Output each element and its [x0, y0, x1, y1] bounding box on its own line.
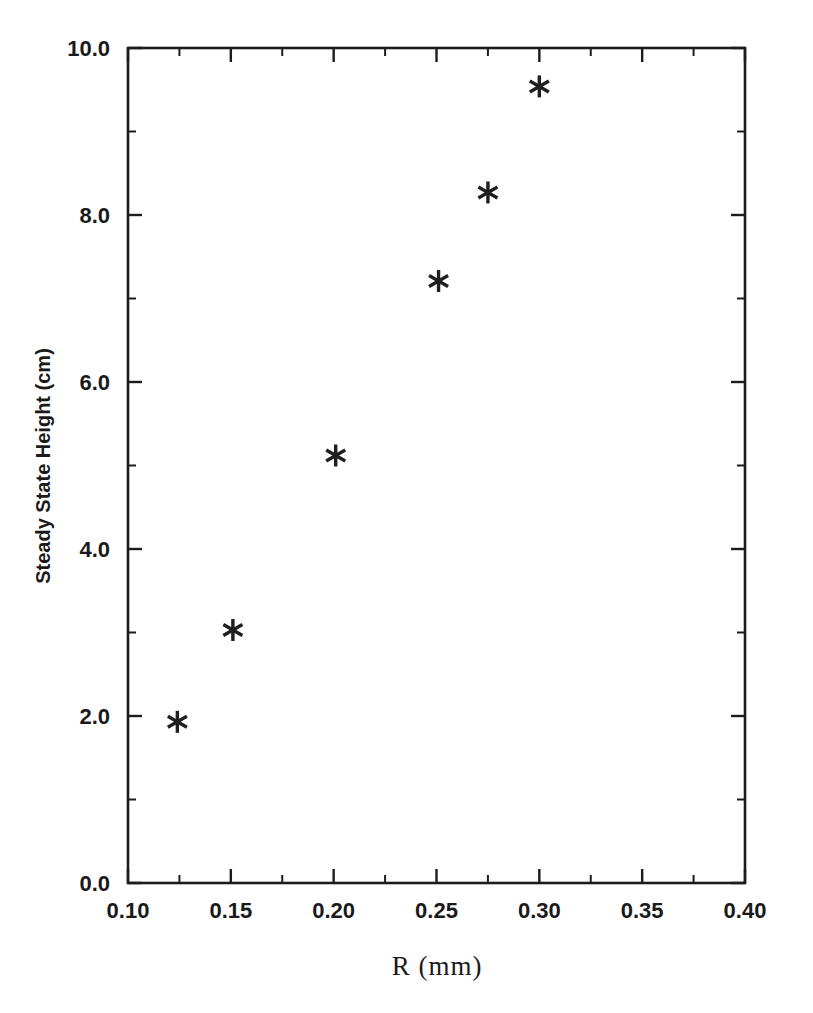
- x-axis-title: R (mm): [392, 951, 483, 981]
- y-tick-label: 10.0: [67, 36, 110, 61]
- tick-marks: [128, 48, 745, 883]
- x-tick-label: 0.40: [724, 898, 767, 923]
- data-point: [530, 75, 549, 97]
- data-points-group: [168, 75, 549, 732]
- x-tick-labels: 0.100.150.200.250.300.350.40: [107, 898, 767, 923]
- axes-frame: [128, 48, 745, 883]
- data-point: [429, 270, 448, 292]
- y-tick-label: 2.0: [79, 704, 110, 729]
- scatter-plot-figure: 0.02.04.06.08.010.0 0.100.150.200.250.30…: [0, 0, 813, 1013]
- y-tick-label: 8.0: [79, 203, 110, 228]
- x-tick-label: 0.15: [209, 898, 252, 923]
- x-tick-label: 0.25: [415, 898, 458, 923]
- data-point: [326, 444, 345, 466]
- y-tick-label: 4.0: [79, 537, 110, 562]
- x-tick-label: 0.30: [518, 898, 561, 923]
- data-point: [168, 711, 187, 733]
- plot-svg: 0.02.04.06.08.010.0 0.100.150.200.250.30…: [0, 0, 813, 1013]
- data-point: [223, 619, 242, 641]
- y-tick-label: 6.0: [79, 370, 110, 395]
- x-tick-label: 0.10: [107, 898, 150, 923]
- x-tick-label: 0.35: [621, 898, 664, 923]
- data-point: [478, 181, 497, 203]
- x-tick-label: 0.20: [312, 898, 355, 923]
- y-tick-label: 0.0: [79, 871, 110, 896]
- y-axis-title: Steady State Height (cm): [32, 348, 54, 584]
- y-tick-labels: 0.02.04.06.08.010.0: [67, 36, 110, 896]
